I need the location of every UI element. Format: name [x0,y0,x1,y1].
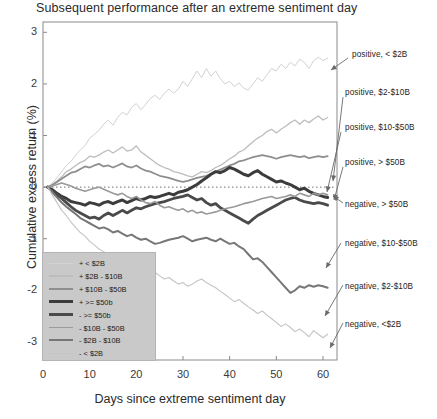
series-annotation-label: positive, $10-$50B [345,123,415,132]
x-tick-label: 50 [261,368,291,380]
x-tick-label: 60 [308,368,338,380]
y-tick-label: 2 [11,77,37,89]
legend-swatch [49,275,73,276]
legend-swatch [49,300,73,303]
legend-swatch [49,353,73,354]
series-annotation-label: negative, $2-$10B [345,282,413,291]
legend-item: - >= $50b [43,309,155,322]
x-tick-label: 40 [215,368,245,380]
y-tick-label: 0 [11,180,37,192]
series-annotation-label: positive, > $50B [345,158,405,167]
x-axis-title: Days since extreme sentiment day [43,392,337,406]
chart-container: Subsequent performance after an extreme … [0,0,437,419]
legend-swatch [49,339,73,341]
legend-label: - < $2B [79,349,103,358]
legend-swatch [49,263,73,264]
legend-item: + < $2B [43,257,155,270]
y-tick-label: -3 [11,335,37,347]
legend-label: - $2B - $10B [79,336,121,345]
legend-item: + >= $50b [43,296,155,309]
legend-label: + $2B - $10B [79,272,122,281]
legend-label: - $10B - $50B [79,324,125,333]
x-tick-label: 10 [75,368,105,380]
annotation-arrowhead [326,186,331,192]
y-tick-label: -2 [11,283,37,295]
annotation-arrowhead [331,65,337,70]
y-tick-label: 3 [11,25,37,37]
x-tick-label: 0 [28,368,58,380]
series-annotation-label: positive, < $2B [352,50,407,59]
legend-item: - < $2B [43,347,155,360]
annotation-leader-line [333,97,343,181]
chart-title: Subsequent performance after an extreme … [36,1,336,15]
y-tick-label: 1 [11,129,37,141]
series-annotation-label: negative, <$2B [345,320,401,329]
annotation-arrowhead [326,262,331,268]
series-line [48,187,328,223]
chart-legend: + < $2B+ $2B - $10B+ $10B - $50B+ >= $50… [42,252,156,361]
legend-label: + >= $50b [79,298,113,307]
legend-swatch [49,313,73,316]
y-tick-label: -1 [11,232,37,244]
series-annotation-label: positive, $2-$10B [345,88,410,97]
annotation-arrowhead [331,175,336,181]
legend-item: - $2B - $10B [43,334,155,347]
legend-swatch [49,288,73,290]
legend-label: + < $2B [79,259,105,268]
series-line [48,183,328,214]
series-line [48,116,328,187]
x-tick-label: 20 [121,368,151,380]
x-tick-label: 30 [168,368,198,380]
series-annotation-label: negative, > $50B [345,200,408,209]
legend-label: + $10B - $50B [79,285,126,294]
legend-item: - $10B - $50B [43,322,155,335]
legend-swatch [49,327,73,329]
series-annotation-label: negative, $10-$50B [345,239,418,248]
legend-item: + $10B - $50B [43,283,155,296]
legend-label: - >= $50b [79,311,111,320]
legend-item: + $2B - $10B [43,270,155,283]
